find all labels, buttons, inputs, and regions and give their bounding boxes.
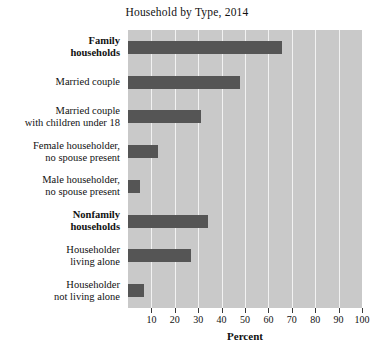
- x-tick-mark-60: [268, 308, 269, 313]
- bar: [128, 180, 140, 193]
- bar: [128, 41, 282, 54]
- x-tick-label-60: 60: [255, 314, 281, 325]
- x-axis-title: Percent: [128, 330, 362, 342]
- category-label: Familyhouseholds: [0, 35, 120, 59]
- x-tick-label-70: 70: [279, 314, 305, 325]
- category-label: Male householder,no spouse present: [0, 174, 120, 198]
- bar-row: [128, 65, 362, 100]
- bar: [128, 110, 201, 123]
- household-by-type-bar-chart: Household by Type, 2014 Familyhouseholds…: [0, 0, 374, 349]
- x-axis: 102030405060708090100: [128, 308, 362, 349]
- bar-row: [128, 169, 362, 204]
- bar-row: [128, 30, 362, 65]
- category-label: Householderliving alone: [0, 244, 120, 268]
- x-tick-mark-30: [198, 308, 199, 313]
- x-tick-label-50: 50: [232, 314, 258, 325]
- plot-area: [128, 30, 362, 308]
- category-label-line: not living alone: [0, 291, 120, 303]
- bar-row: [128, 273, 362, 308]
- x-tick-mark-20: [175, 308, 176, 313]
- category-label-line: Female householder,: [0, 140, 120, 152]
- x-tick-label-90: 90: [326, 314, 352, 325]
- bar: [128, 76, 240, 89]
- bar-row: [128, 204, 362, 239]
- x-tick-label-80: 80: [302, 314, 328, 325]
- category-label-line: Nonfamily: [0, 209, 120, 221]
- category-label: Married couplewith children under 18: [0, 105, 120, 129]
- category-label: Householdernot living alone: [0, 279, 120, 303]
- category-label: Nonfamilyhouseholds: [0, 209, 120, 233]
- bar: [128, 249, 191, 262]
- category-label: Female householder,no spouse present: [0, 140, 120, 164]
- x-tick-mark-10: [151, 308, 152, 313]
- bar-row: [128, 239, 362, 274]
- category-label-line: Householder: [0, 244, 120, 256]
- category-label-line: living alone: [0, 256, 120, 268]
- category-label-line: with children under 18: [0, 117, 120, 129]
- x-tick-mark-100: [362, 308, 363, 313]
- category-label-line: households: [0, 221, 120, 233]
- category-label-line: households: [0, 47, 120, 59]
- x-tick-mark-70: [292, 308, 293, 313]
- x-tick-mark-90: [339, 308, 340, 313]
- category-label-line: Householder: [0, 279, 120, 291]
- bar: [128, 284, 144, 297]
- bar-row: [128, 134, 362, 169]
- category-label-line: Family: [0, 35, 120, 47]
- x-tick-label-20: 20: [162, 314, 188, 325]
- bar-row: [128, 100, 362, 135]
- category-label-line: no spouse present: [0, 152, 120, 164]
- x-tick-label-10: 10: [138, 314, 164, 325]
- x-tick-label-100: 100: [349, 314, 374, 325]
- x-tick-mark-40: [222, 308, 223, 313]
- bar: [128, 145, 158, 158]
- category-label-line: no spouse present: [0, 186, 120, 198]
- x-tick-mark-50: [245, 308, 246, 313]
- category-label-line: Married couple: [0, 76, 120, 88]
- category-label-line: Male householder,: [0, 174, 120, 186]
- x-tick-mark-80: [315, 308, 316, 313]
- chart-title: Household by Type, 2014: [0, 6, 374, 18]
- category-axis-labels: FamilyhouseholdsMarried coupleMarried co…: [0, 30, 124, 308]
- category-label-line: Married couple: [0, 105, 120, 117]
- bar: [128, 215, 208, 228]
- x-tick-label-30: 30: [185, 314, 211, 325]
- category-label: Married couple: [0, 76, 120, 88]
- x-tick-label-40: 40: [209, 314, 235, 325]
